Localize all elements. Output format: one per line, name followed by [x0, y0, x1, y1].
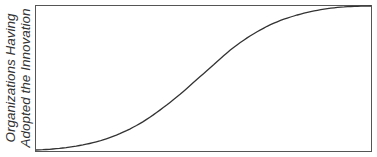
plot-frame	[36, 6, 372, 152]
adoption-curve	[36, 6, 371, 150]
chart-plot	[0, 0, 377, 157]
